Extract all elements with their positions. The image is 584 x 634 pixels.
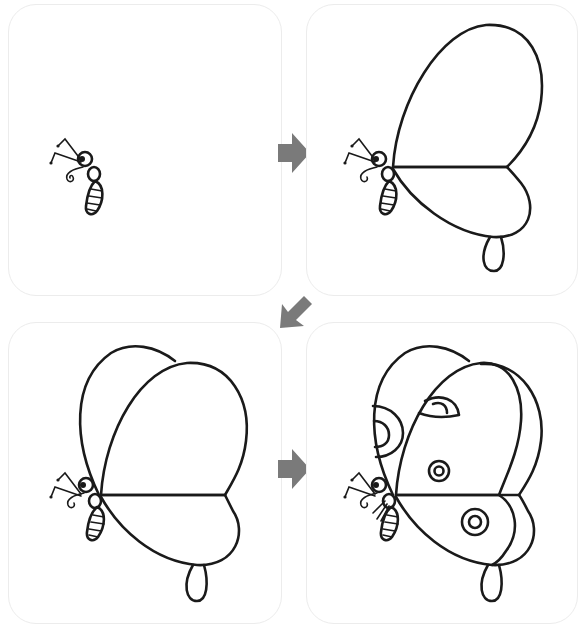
butterfly-second-wing-drawing — [9, 323, 281, 623]
butterfly-wings-drawing — [307, 5, 577, 295]
butterfly-body-drawing — [9, 5, 281, 295]
page-title: How to draw a butterfly — [0, 0, 1, 1]
butterfly-final-drawing — [307, 323, 577, 623]
step-1-panel: Step 1: body, head, antennae and probosc… — [8, 4, 282, 296]
step-2-panel: Step 2: front wing and hind wing with ta… — [306, 4, 578, 296]
step-4-panel: Step 4: add wing borders, eyespots and l… — [306, 322, 578, 624]
step-3-panel: Step 3: add second front wing — [8, 322, 282, 624]
